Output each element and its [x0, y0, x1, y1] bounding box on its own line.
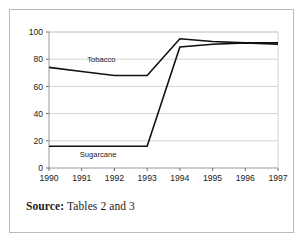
x-axis-tick-label: 1990 [39, 173, 58, 183]
x-axis-tick-label: 1997 [268, 173, 287, 183]
axis-lines [49, 32, 278, 168]
y-axis-tick-labels: 020406080100 [29, 27, 49, 173]
chart-plot-area: 020406080100 199019911992199319941995199… [10, 10, 295, 188]
series-line-sugarcane [49, 43, 278, 146]
series-label-tobacco: Tobacco [87, 55, 115, 64]
x-axis-tick-label: 1991 [72, 173, 91, 183]
y-axis-tick-label: 40 [33, 109, 43, 119]
x-axis-tick-label: 1996 [236, 173, 255, 183]
line-chart: 020406080100 199019911992199319941995199… [10, 10, 295, 188]
series-inline-labels: TobaccoSugarcane [80, 55, 117, 159]
x-axis-tick-label: 1995 [203, 173, 222, 183]
y-axis-tick-label: 0 [38, 163, 43, 173]
source-note: Source: Tables 2 and 3 [26, 200, 135, 212]
y-axis-tick-label: 60 [33, 82, 43, 92]
figure-frame: 020406080100 199019911992199319941995199… [9, 9, 294, 233]
data-series-lines [49, 39, 278, 146]
y-axis-tick-label: 20 [33, 136, 43, 146]
y-axis-tick-label: 100 [29, 27, 44, 37]
source-note-text: Tables 2 and 3 [64, 200, 135, 212]
x-axis-tick-label: 1992 [105, 173, 124, 183]
series-line-tobacco [49, 39, 278, 76]
y-axis-tick-label: 80 [33, 54, 43, 64]
x-axis-tick-labels: 19901991199219931994199519961997 [39, 168, 287, 183]
x-axis-tick-label: 1994 [170, 173, 189, 183]
series-label-sugarcane: Sugarcane [80, 150, 117, 159]
source-note-label: Source: [26, 200, 64, 212]
gridlines [49, 32, 278, 141]
x-axis-tick-label: 1993 [138, 173, 157, 183]
